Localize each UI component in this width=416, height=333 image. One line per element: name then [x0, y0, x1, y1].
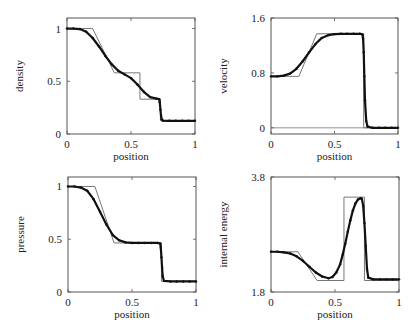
numerical-point — [363, 222, 365, 224]
numerical-point — [346, 33, 348, 35]
numerical-point — [155, 97, 157, 99]
numerical-point — [67, 185, 69, 187]
numerical-point — [79, 28, 81, 30]
x-tick-label: 0.5 — [328, 138, 342, 150]
x-axis-label: position — [114, 308, 150, 320]
numerical-point — [104, 55, 106, 57]
numerical-point — [321, 275, 323, 277]
y-tick-label: 0 — [260, 122, 266, 134]
numerical-point — [379, 278, 381, 280]
numerical-point — [371, 127, 373, 129]
numerical-point — [160, 246, 162, 248]
numerical-point — [118, 239, 120, 241]
numerical-point — [92, 198, 94, 200]
numerical-point — [295, 68, 297, 70]
numerical-point — [347, 230, 349, 232]
y-axis-label: internal energy — [217, 201, 229, 268]
x-axis-label: position — [317, 150, 353, 162]
numerical-point — [150, 242, 152, 244]
numerical-point — [363, 75, 365, 77]
numerical-point — [72, 27, 74, 29]
chart-density: 00.5100.51positiondensity — [13, 18, 198, 162]
y-axis-label: pressure — [14, 216, 26, 253]
numerical-point — [283, 251, 285, 253]
y-tick-label: 1.8 — [251, 286, 265, 298]
numerical-point — [390, 127, 392, 129]
numerical-point — [130, 77, 132, 79]
numerical-point — [333, 33, 335, 35]
numerical-point — [344, 243, 346, 245]
numerical-point — [105, 223, 107, 225]
numerical-point — [270, 251, 272, 253]
numerical-point — [80, 186, 82, 188]
y-axis-label: velocity — [217, 58, 229, 94]
numerical-point — [359, 33, 361, 35]
numerical-point — [162, 120, 164, 122]
numerical-point — [366, 268, 368, 270]
numerical-point — [364, 99, 366, 101]
numerical-point — [366, 125, 368, 127]
numerical-point — [365, 245, 367, 247]
numerical-point — [397, 127, 399, 129]
numerical-point — [137, 242, 139, 244]
exact-solution-line — [271, 34, 398, 128]
numerical-point — [163, 280, 165, 282]
x-tick-label: 0 — [65, 296, 71, 308]
numerical-point — [308, 266, 310, 268]
numerical-point — [124, 241, 126, 243]
numerical-point — [182, 280, 184, 282]
y-tick-label: 1 — [57, 180, 63, 192]
numerical-point — [339, 263, 341, 265]
numerical-point — [378, 127, 380, 129]
numerical-point — [176, 280, 178, 282]
numerical-point — [181, 120, 183, 122]
numerical-point — [276, 75, 278, 77]
numerical-point — [160, 115, 162, 117]
x-tick-label: 1 — [192, 138, 198, 150]
numerical-point — [73, 185, 75, 187]
x-tick-label: 0 — [64, 138, 70, 150]
numerical-point — [354, 202, 356, 204]
exact-solution-line — [271, 197, 399, 280]
numerical-point — [340, 33, 342, 35]
numerical-point — [91, 37, 93, 39]
numerical-point — [335, 271, 337, 273]
x-tick-label: 1 — [395, 138, 401, 150]
x-tick-label: 0.5 — [125, 296, 139, 308]
numerical-point — [66, 27, 68, 29]
numerical-point — [363, 51, 365, 53]
exact-solution-line — [67, 29, 195, 121]
plot-frame — [67, 18, 195, 134]
numerical-point — [308, 51, 310, 53]
numerical-point — [149, 96, 151, 98]
y-tick-label: 0 — [57, 286, 63, 298]
plot-frame — [68, 177, 196, 292]
numerical-point — [162, 275, 164, 277]
y-tick-label: 0.5 — [47, 75, 61, 87]
numerical-point — [341, 253, 343, 255]
numerical-point — [85, 31, 87, 33]
y-tick-label: 1.6 — [251, 12, 265, 24]
numerical-point — [175, 120, 177, 122]
numerical-point — [194, 120, 196, 122]
numerical-point — [384, 127, 386, 129]
numerical-point — [99, 211, 101, 213]
numerical-point — [367, 276, 369, 278]
numerical-point — [159, 101, 161, 103]
y-axis-label: density — [13, 60, 25, 92]
numerical-point — [314, 43, 316, 45]
numerical-point — [357, 198, 359, 200]
numerical-point — [160, 256, 162, 258]
chart-internal-energy: 00.511.83.8positioninternal energy — [217, 171, 402, 320]
x-tick-label: 0 — [268, 138, 274, 150]
numerical-point — [158, 98, 160, 100]
numerical-point — [159, 109, 161, 111]
numerical-point — [349, 219, 351, 221]
y-tick-label: 3.8 — [251, 171, 265, 183]
numerical-point — [352, 33, 354, 35]
numerical-point — [270, 75, 272, 77]
numerical-point — [331, 276, 333, 278]
x-tick-label: 1 — [193, 296, 199, 308]
numerical-point — [111, 63, 113, 65]
numerical-point — [315, 271, 317, 273]
